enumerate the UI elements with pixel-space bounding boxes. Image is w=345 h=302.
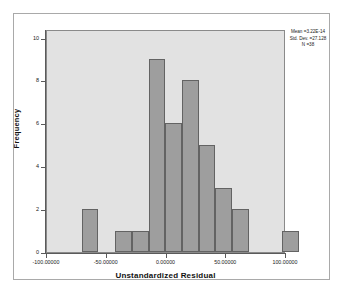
y-tick-label: 4	[22, 164, 39, 170]
y-axis-title: Frequency	[12, 84, 21, 174]
bars-layer	[47, 31, 284, 252]
histogram-bar	[149, 59, 166, 252]
histogram-bar	[82, 209, 99, 252]
histogram-figure: 0246810 -100.00000-50.000000.0000050.000…	[0, 0, 345, 302]
histogram-bar	[115, 231, 132, 252]
x-tick-label: 100.00000	[262, 260, 308, 265]
x-tick-label: -100.00000	[23, 260, 69, 265]
histogram-bar	[182, 80, 199, 252]
x-axis-title: Unstandardized Residual	[46, 271, 285, 280]
x-tick-label: 50.00000	[202, 260, 248, 265]
y-tick-mark	[41, 39, 45, 40]
x-tick-mark	[106, 254, 107, 258]
plot-area	[46, 30, 285, 253]
y-tick-mark	[41, 81, 45, 82]
stats-std-dev: Std. Dev. =27.128	[288, 36, 328, 43]
stats-annotation: Mean =3.22E-14 Std. Dev. =27.128 N =38	[288, 29, 328, 49]
x-tick-mark	[166, 254, 167, 258]
x-tick-mark	[225, 254, 226, 258]
y-tick-label: 2	[22, 207, 39, 213]
y-tick-mark	[41, 124, 45, 125]
x-tick-mark	[285, 254, 286, 258]
x-tick-mark	[46, 254, 47, 258]
y-axis-line	[45, 30, 46, 253]
histogram-bar	[232, 209, 249, 252]
stats-n: N =38	[288, 42, 328, 49]
x-tick-label: -50.00000	[83, 260, 129, 265]
histogram-bar	[282, 231, 299, 252]
histogram-bar	[199, 145, 216, 252]
y-tick-mark	[41, 253, 45, 254]
y-tick-label: 8	[22, 78, 39, 84]
histogram-bar	[165, 123, 182, 252]
histogram-bar	[215, 188, 232, 252]
y-tick-mark	[41, 167, 45, 168]
y-tick-mark	[41, 210, 45, 211]
y-tick-label: 10	[22, 36, 39, 42]
stats-mean: Mean =3.22E-14	[288, 29, 328, 36]
y-tick-label: 0	[22, 250, 39, 256]
y-tick-label: 6	[22, 121, 39, 127]
histogram-bar	[132, 231, 149, 252]
x-tick-label: 0.00000	[143, 260, 189, 265]
